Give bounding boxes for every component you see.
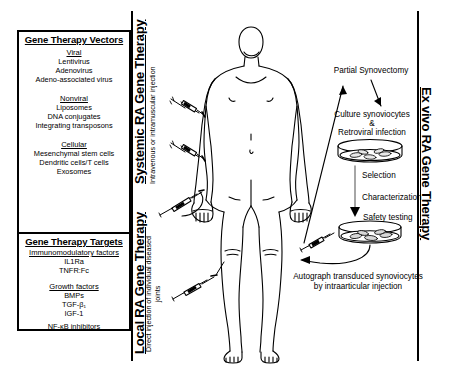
vectors-item: Dendritic cells/T cells [21,158,127,167]
targets-footer: NF-κB inhibitors [21,322,127,331]
targets-item: IL1Ra [21,257,127,266]
spacer [21,275,127,279]
vectors-subtitle-cellular: Cellular [21,140,127,149]
local-ra-route-label: Direct injection of individual diseased … [145,234,162,354]
vectors-subtitle-viral: Viral [21,48,127,57]
targets-subtitle-growth: Growth factors [21,282,127,291]
targets-title: Gene Therapy Targets [21,236,127,247]
syringe-icon-systemic-1 [170,97,205,117]
vectors-item: Lentivirus [21,57,127,66]
syringe-icon-exvivo [300,233,334,252]
arrow-icon-reinjection [300,245,370,264]
targets-item: TNFR:Fc [21,266,127,275]
vectors-item: Adenovirus [21,66,127,75]
vectors-item: Exosomes [21,167,127,176]
vectors-item: Integrating transposons [21,121,127,130]
step-selection: Selection [362,171,432,181]
petri-dish-icon-2 [339,221,401,243]
ra-gene-therapy-figure: Gene Therapy Vectors Viral Lentivirus Ad… [0,0,451,368]
spacer [21,84,127,91]
systemic-ra-route-label: Intravenous or intramuscular injection [148,66,157,184]
petri-dish-icon-1 [338,140,402,163]
step-retroviral-infection: Retroviral infection [316,128,428,138]
step-safety-testing: Safety testing [363,213,437,223]
targets-item: IGF-1 [21,309,127,318]
vectors-item: Mesenchymal stem cells [21,149,127,158]
vectors-title: Gene Therapy Vectors [21,34,127,45]
systemic-ra-gene-therapy-label: Systemic RA Gene Therapy [132,19,147,184]
final-step-line1: Autograph transduced synoviocytes [288,272,428,282]
gene-therapy-targets-panel: Gene Therapy Targets Immunomodulatory fa… [17,232,131,331]
vectors-item: Liposomes [21,103,127,112]
syringe-icon-local-knee [172,262,224,301]
vectors-item: DNA conjugates [21,112,127,121]
final-step-line2: by intraarticular injection [288,282,428,292]
arrow-icon-synovectomy-to-culture [371,80,381,106]
step-characterization: Characterization [362,193,438,203]
vectors-item: Adeno-associated virus [21,75,127,84]
spacer [21,130,127,137]
targets-item: BMPs [21,291,127,300]
targets-subtitle-immuno: Immunomodulatory factors [21,248,127,257]
syringe-icon-systemic-2 [170,141,205,161]
syringe-icon-local-hand [159,190,204,217]
vectors-subtitle-nonviral: Nonviral [21,94,127,103]
step-partial-synovectomy: Partial Synovectomy [309,66,433,76]
targets-item: TGF-β₁ [21,300,127,309]
human-body-figure [192,27,311,363]
arrow-icon-processing [350,166,360,217]
